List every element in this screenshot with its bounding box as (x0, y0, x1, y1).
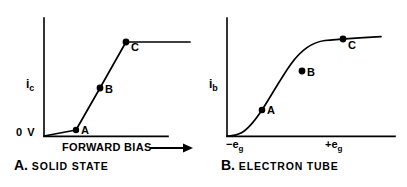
point-marker-b (97, 85, 104, 92)
x-tick-label-negative-eg: −eg (226, 139, 243, 153)
y-axis-label: ic (26, 78, 34, 93)
panel-a-caption-text: SOLID STATE (32, 160, 109, 172)
x-tick-positive-subscript: g (338, 144, 343, 153)
panel-b-caption-letter: B. (221, 157, 235, 173)
y-axis-label-subscript: b (212, 83, 218, 93)
panel-electron-tube: ib −eg +eg A B C B. ELECTRON TUBE (203, 0, 407, 187)
point-marker-a (73, 127, 79, 133)
panel-b-caption: B. ELECTRON TUBE (221, 158, 339, 172)
y-axis-label-subscript: c (29, 83, 34, 93)
point-label-a: A (267, 105, 275, 116)
forward-bias-arrow-head (183, 144, 193, 153)
panel-b-caption-text: ELECTRON TUBE (239, 160, 339, 172)
point-label-b: B (307, 67, 315, 78)
point-marker-b (299, 68, 306, 75)
point-marker-c (340, 36, 347, 43)
curve-electron-tube (227, 37, 381, 136)
point-label-a: A (81, 125, 89, 136)
y-axis-label: ib (209, 78, 218, 93)
figure-container: ic 0 V FORWARD BIAS A B C A. SOLID STATE (0, 0, 407, 187)
point-label-b: B (105, 84, 113, 95)
point-marker-a (259, 107, 266, 114)
panel-a-caption: A. SOLID STATE (14, 158, 109, 172)
origin-label: 0 V (16, 127, 36, 138)
panel-solid-state: ic 0 V FORWARD BIAS A B C A. SOLID STATE (0, 0, 204, 187)
x-tick-label-positive-eg: +eg (325, 139, 342, 153)
x-tick-negative-subscript: g (239, 144, 244, 153)
point-label-c: C (131, 42, 139, 53)
point-label-c: C (348, 40, 356, 51)
point-marker-c (123, 39, 130, 46)
panel-a-caption-letter: A. (14, 157, 28, 173)
x-axis-title: FORWARD BIAS (62, 142, 152, 153)
curve-solid-state (44, 42, 190, 136)
